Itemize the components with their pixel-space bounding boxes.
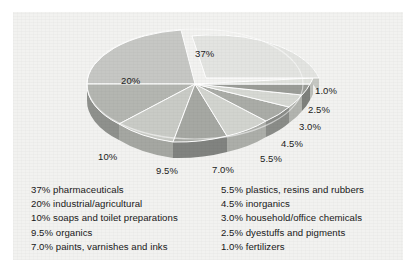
legend-name: pharmaceuticals [50,184,123,195]
pie-label-1-0: 1.0% [315,85,337,96]
legend-item-soaps: 10% soaps and toilet preparations [31,211,217,225]
legend-pct: 37% [31,184,50,195]
chart-legend: 37% pharmaceuticals 20% industrial/agric… [13,183,403,259]
legend-pct: 4.5% [221,198,243,209]
legend-item-pharmaceuticals: 37% pharmaceuticals [31,183,217,197]
pie-label-3-0: 3.0% [299,121,321,132]
pie-label-2-5: 2.5% [308,104,330,115]
legend-column-left: 37% pharmaceuticals 20% industrial/agric… [13,183,217,259]
legend-name: household/office chemicals [243,212,362,223]
legend-name: industrial/agricultural [50,198,142,209]
pie-label-10: 10% [98,151,117,162]
legend-pct: 5.5% [221,184,243,195]
pie-label-20: 20% [121,75,140,86]
legend-item-dyestuffs: 2.5% dyestuffs and pigments [221,226,403,240]
legend-name: dyestuffs and pigments [243,227,345,238]
legend-item-inorganics: 4.5% inorganics [221,197,403,211]
legend-item-industrial-agricultural: 20% industrial/agricultural [31,197,217,211]
legend-item-paints: 7.0% paints, varnishes and inks [31,240,217,254]
legend-item-household-office: 3.0% household/office chemicals [221,211,403,225]
legend-pct: 10% [31,212,50,223]
legend-column-right: 5.5% plastics, resins and rubbers 4.5% i… [217,183,403,259]
legend-name: paints, varnishes and inks [53,241,167,252]
legend-name: organics [53,227,92,238]
legend-pct: 20% [31,198,50,209]
pie-label-5-5: 5.5% [260,153,282,164]
legend-pct: 3.0% [221,212,243,223]
legend-pct: 2.5% [221,227,243,238]
legend-item-fertilizers: 1.0% fertilizers [221,240,403,254]
screenshot-root: 37% 20% 10% 9.5% 7.0% 5.5% 4.5% 3.0% 2.5… [0,0,413,273]
slice-industrial-agricultural [87,30,195,84]
pie-label-37: 37% [195,48,214,59]
legend-pct: 7.0% [31,241,53,252]
slice-fertilizers [195,78,313,84]
legend-name: inorganics [243,198,290,209]
pie-label-4-5: 4.5% [281,138,303,149]
pie-label-9-5: 9.5% [156,165,178,176]
legend-name: soaps and toilet preparations [50,212,177,223]
legend-pct: 1.0% [221,241,243,252]
legend-item-plastics: 5.5% plastics, resins and rubbers [221,183,403,197]
legend-pct: 9.5% [31,227,53,238]
legend-item-organics: 9.5% organics [31,226,217,240]
legend-name: fertilizers [243,241,285,252]
pie-label-7-0: 7.0% [212,164,234,175]
legend-name: plastics, resins and rubbers [243,184,364,195]
